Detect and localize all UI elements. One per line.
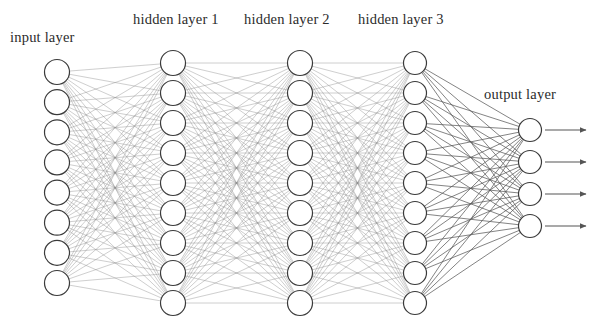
neuron-node-hidden_3-5 [404,172,427,195]
neuron-node-hidden_2-3 [288,111,313,136]
neuron-node-hidden_1-8 [161,261,186,286]
neuron-node-hidden_3-1 [404,52,427,75]
neuron-node-hidden_3-3 [404,112,427,135]
layer-label-input: input layer [10,29,75,46]
connection-edge [57,93,173,283]
neuron-node-hidden_1-3 [161,111,186,136]
neuron-node-input-2 [45,90,70,115]
neuron-node-input-3 [45,120,70,145]
neuron-node-hidden_2-8 [288,261,313,286]
neuron-node-hidden_3-4 [404,142,427,165]
neuron-node-output-2 [519,151,542,174]
layer-label-hidden-1: hidden layer 1 [133,11,219,28]
neuron-node-input-5 [45,180,70,205]
layer-label-hidden-2: hidden layer 2 [244,11,330,28]
neuron-node-hidden_2-1 [288,51,313,76]
connection-edge [415,226,530,303]
neuron-node-hidden_2-5 [288,171,313,196]
neuron-node-output-3 [519,183,542,206]
neuron-node-input-4 [45,150,70,175]
output-arrows-group [545,130,586,226]
neuron-node-hidden_1-2 [161,81,186,106]
neuron-node-hidden_2-7 [288,231,313,256]
connection-edge [415,226,530,243]
connection-edge [415,183,530,194]
neuron-node-hidden_1-5 [161,171,186,196]
connection-edge [415,130,530,303]
neuron-node-hidden_3-6 [404,202,427,225]
network-canvas [0,0,600,324]
connection-edge [415,162,530,183]
neuron-node-hidden_2-4 [288,141,313,166]
connection-edge [415,162,530,303]
connection-edge [57,283,173,303]
neuron-node-hidden_3-8 [404,262,427,285]
neuron-node-input-1 [45,60,70,85]
neuron-node-output-1 [519,119,542,142]
neuron-node-hidden_2-6 [288,201,313,226]
neuron-node-hidden_2-2 [288,81,313,106]
connection-edge [415,130,530,243]
neuron-node-hidden_3-7 [404,232,427,255]
neuron-node-output-4 [519,215,542,238]
neuron-node-input-8 [45,271,70,296]
neuron-node-hidden_1-6 [161,201,186,226]
neuron-node-hidden_2-9 [288,291,313,316]
neuron-node-hidden_1-7 [161,231,186,256]
neuron-node-hidden_1-4 [161,141,186,166]
neuron-node-hidden_3-2 [404,82,427,105]
neuron-node-input-7 [45,240,70,265]
connection-edge [57,63,173,72]
neuron-node-input-6 [45,210,70,235]
neuron-node-hidden_3-9 [404,292,427,315]
connection-edge [415,153,530,162]
layer-label-output: output layer [484,86,556,103]
neural-network-diagram: input layer hidden layer 1 hidden layer … [0,0,600,324]
neuron-node-hidden_1-1 [161,51,186,76]
connection-edge [415,162,530,273]
layer-label-hidden-3: hidden layer 3 [358,11,444,28]
neuron-node-hidden_1-9 [161,291,186,316]
